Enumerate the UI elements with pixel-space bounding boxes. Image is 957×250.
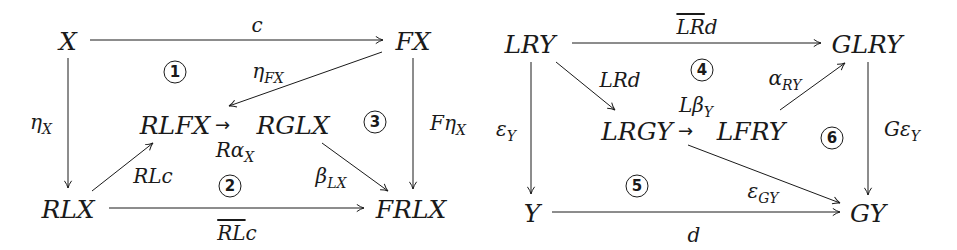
label-c: c — [251, 15, 262, 35]
region-5-badge: 5 — [626, 175, 649, 198]
label-overline-rlc: RLc — [217, 223, 257, 243]
label-beta-lx: βLX — [316, 166, 347, 189]
node-y: Y — [524, 201, 541, 226]
region-3-badge: 3 — [364, 111, 387, 134]
label-eps-gy: εGY — [748, 181, 779, 204]
region-1-badge: 1 — [164, 61, 187, 84]
region-4-badge: 4 — [691, 59, 714, 82]
label-rlc: RLc — [133, 166, 173, 186]
node-rlx: RLX — [41, 197, 94, 222]
label-f-eta-x: FηX — [430, 113, 466, 136]
node-rlfx: RLFX — [140, 113, 211, 138]
label-overline-lrd: LRd — [676, 17, 717, 37]
node-lfry: LFRY — [717, 119, 786, 144]
node-fx: FX — [395, 29, 430, 54]
label-eta-x: ηX — [30, 112, 52, 135]
label-lrd: LRd — [599, 70, 640, 90]
label-r-alpha-x: RαX — [216, 140, 255, 163]
arrow-r-alpha-x: → — [215, 114, 230, 135]
node-rglx: RGLX — [256, 113, 329, 138]
node-lry: LRY — [504, 32, 555, 57]
node-lrgy: LRGY — [601, 119, 672, 144]
label-d: d — [688, 225, 701, 245]
label-eps-y: εY — [496, 119, 516, 142]
region-6-badge: 6 — [821, 127, 844, 150]
label-eta-fx: ηFX — [252, 61, 284, 84]
label-l-beta-y: LβY — [679, 95, 713, 118]
label-g-eps-y: GεY — [884, 119, 920, 142]
node-frlx: FRLX — [376, 197, 447, 222]
node-glry: GLRY — [831, 32, 902, 57]
node-gy: GY — [850, 201, 886, 226]
node-x: X — [59, 29, 77, 54]
label-alpha-ry: αRY — [769, 68, 802, 91]
arrow-l-beta-y: → — [678, 120, 693, 141]
region-2-badge: 2 — [219, 175, 242, 198]
